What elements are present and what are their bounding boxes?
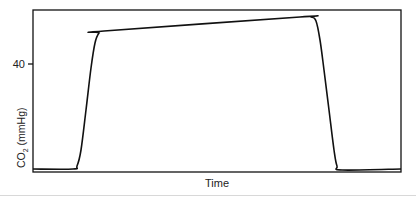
divider — [0, 195, 416, 196]
x-axis-label: Time — [205, 177, 229, 189]
svg-text:CO2 (mmHg): CO2 (mmHg) — [15, 108, 29, 168]
chart: 40 CO2 (mmHg) Time — [0, 0, 416, 198]
y-axis-label: CO2 (mmHg) — [15, 108, 29, 168]
y-tick-label: 40 — [13, 58, 25, 70]
co2-waveform-line — [33, 16, 401, 170]
